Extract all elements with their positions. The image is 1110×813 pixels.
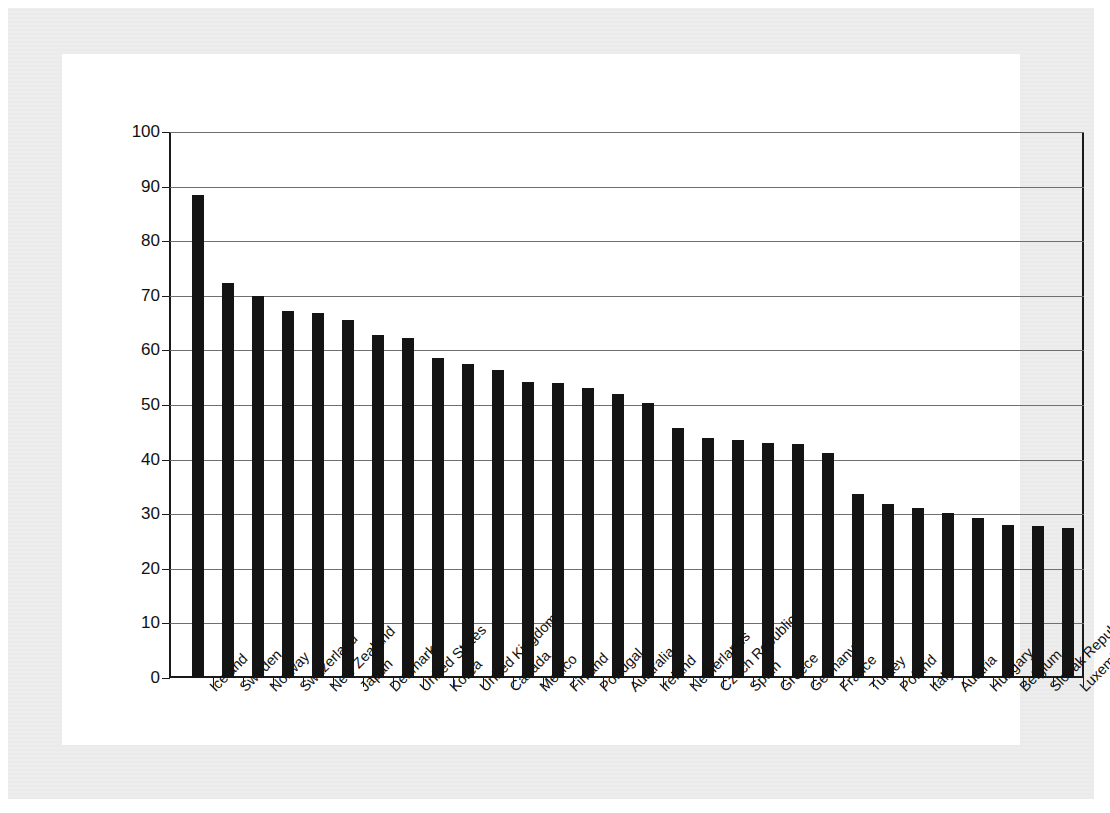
bar <box>342 320 354 678</box>
y-axis-tick-label: 40 <box>141 450 160 470</box>
x-axis-category-label: France <box>837 684 847 694</box>
x-axis-category-label: Belgium <box>1017 684 1027 694</box>
bar <box>942 513 954 678</box>
bar <box>402 338 414 678</box>
bar-series <box>169 132 1084 678</box>
bar <box>912 508 924 678</box>
y-axis-tick-mark <box>162 241 170 242</box>
x-axis-category-label: Turkey <box>867 684 877 694</box>
y-axis-tick-label: 10 <box>141 613 160 633</box>
y-axis-tick-label: 0 <box>151 668 160 688</box>
x-axis-category-label: Luxembourg <box>1077 684 1087 694</box>
y-axis-tick-label: 80 <box>141 231 160 251</box>
x-axis-category-label: United Kingdom <box>477 684 487 694</box>
x-axis-category-label: Iceland <box>207 684 217 694</box>
x-axis-category-label: Slovak Republic <box>1047 684 1057 694</box>
y-axis-tick-label: 60 <box>141 340 160 360</box>
bar <box>1002 525 1014 678</box>
bar <box>222 283 234 678</box>
bar <box>1062 528 1074 678</box>
y-axis-tick-mark <box>162 350 170 351</box>
bar <box>972 518 984 678</box>
y-axis-tick-label: 90 <box>141 177 160 197</box>
bar <box>432 358 444 678</box>
bar <box>672 428 684 678</box>
x-axis-category-label: Greece <box>777 684 787 694</box>
x-axis-category-label: Netherlands <box>687 684 697 694</box>
screenshot-root: 0102030405060708090100 IcelandSwedenNorw… <box>0 0 1110 813</box>
x-axis-category-label: Norway <box>267 684 277 694</box>
bar <box>582 388 594 678</box>
bar <box>792 444 804 678</box>
bar <box>492 370 504 678</box>
bar <box>702 438 714 678</box>
x-axis-category-label: Spain <box>747 684 757 694</box>
x-axis-category-label: Japan <box>357 684 367 694</box>
bar <box>882 504 894 678</box>
x-axis-category-label: Mexico <box>537 684 547 694</box>
y-axis-tick-label: 20 <box>141 559 160 579</box>
y-axis-tick-mark <box>162 187 170 188</box>
bar <box>312 313 324 678</box>
y-axis-tick-mark <box>162 623 170 624</box>
x-axis-category-label: Hungary <box>987 684 997 694</box>
plot-area: 0102030405060708090100 <box>169 132 1084 678</box>
x-axis-category-label: Poland <box>897 684 907 694</box>
bar <box>552 383 564 678</box>
x-axis-category-label: Denmark <box>387 684 397 694</box>
y-axis-tick-mark <box>162 460 170 461</box>
bar <box>612 394 624 678</box>
y-axis-tick-mark <box>162 296 170 297</box>
y-axis-tick-mark <box>162 569 170 570</box>
x-axis-category-label: Finland <box>567 684 577 694</box>
y-axis-tick-mark <box>162 405 170 406</box>
x-axis-category-label: Korea <box>447 684 457 694</box>
bar <box>252 296 264 678</box>
y-axis-tick-mark <box>162 678 170 679</box>
bar <box>192 195 204 678</box>
bar <box>822 453 834 678</box>
x-axis-category-label: Switzerland <box>297 684 307 694</box>
x-axis-category-label: Austria <box>957 684 967 694</box>
x-axis-category-label: Canada <box>507 684 517 694</box>
y-axis-tick-label: 50 <box>141 395 160 415</box>
x-axis-category-label: Portugal <box>597 684 607 694</box>
y-axis-tick-label: 100 <box>132 122 160 142</box>
x-axis-category-label: Ireland <box>657 684 667 694</box>
bar <box>642 403 654 678</box>
x-axis-category-label: United States <box>417 684 427 694</box>
x-axis-category-label: Italy <box>927 684 937 694</box>
x-axis-category-label: New Zealand <box>327 684 337 694</box>
chart-card: 0102030405060708090100 IcelandSwedenNorw… <box>62 54 1020 745</box>
y-axis-tick-mark <box>162 514 170 515</box>
y-axis-tick-label: 30 <box>141 504 160 524</box>
y-axis-tick-mark <box>162 132 170 133</box>
x-axis-category-label: Australia <box>627 684 637 694</box>
x-axis-category-label: Sweden <box>237 684 247 694</box>
x-axis-category-labels: IcelandSwedenNorwaySwitzerlandNew Zealan… <box>169 684 1084 794</box>
x-axis-category-label: Germany <box>807 684 817 694</box>
bar <box>282 311 294 678</box>
y-axis-tick-label: 70 <box>141 286 160 306</box>
x-axis-category-label: Czech Republic <box>717 684 727 694</box>
